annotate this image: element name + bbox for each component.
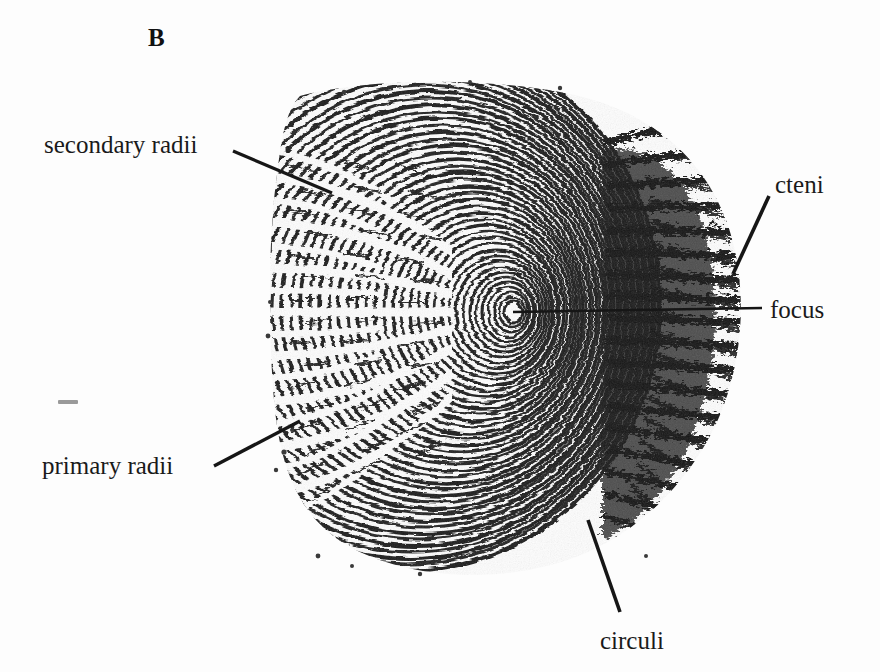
- scale-specimen-image: [0, 0, 880, 672]
- label-focus: focus: [770, 297, 824, 322]
- label-circuli: circuli: [600, 628, 664, 653]
- figure-panel-b: B secondary radii primary radii cteni fo…: [0, 0, 880, 672]
- print-grain: [260, 76, 760, 576]
- label-primary-radii: primary radii: [42, 453, 173, 478]
- label-cteni: cteni: [775, 172, 824, 197]
- stray-ink-dash: [58, 400, 78, 404]
- panel-letter: B: [148, 24, 165, 52]
- label-secondary-radii: secondary radii: [44, 132, 197, 157]
